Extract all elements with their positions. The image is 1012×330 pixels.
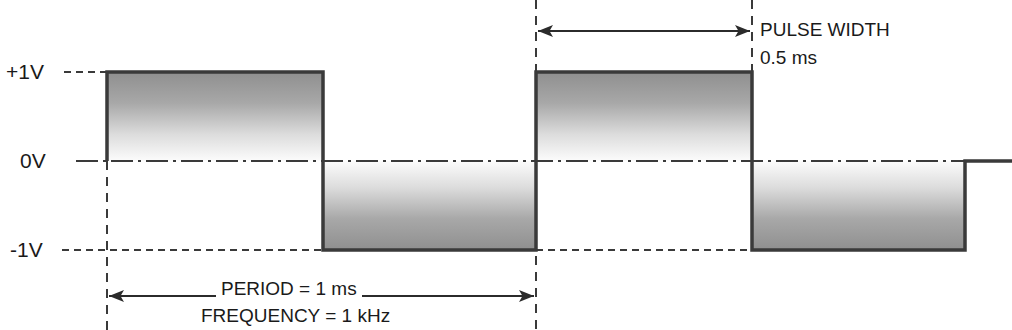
axis-label-minus-one-volt: -1V <box>10 238 43 262</box>
axis-label-zero-volt: 0V <box>20 149 46 173</box>
pulse-width-value: 0.5 ms <box>760 47 817 69</box>
waveform-graphic <box>0 0 1012 330</box>
pulse-fill-high-2 <box>536 72 752 161</box>
pulse-fill-high-1 <box>107 72 323 161</box>
pulse-fill-low-2 <box>752 161 965 250</box>
period-label: PERIOD = 1 ms <box>216 278 362 300</box>
axis-label-plus-one-volt: +1V <box>6 60 44 84</box>
pulse-fill-low-1 <box>323 161 536 250</box>
pulse-width-title: PULSE WIDTH <box>760 19 890 41</box>
frequency-label: FREQUENCY = 1 kHz <box>196 305 395 327</box>
square-wave-diagram: +1V 0V -1V PULSE WIDTH 0.5 ms PERIOD = 1… <box>0 0 1012 330</box>
